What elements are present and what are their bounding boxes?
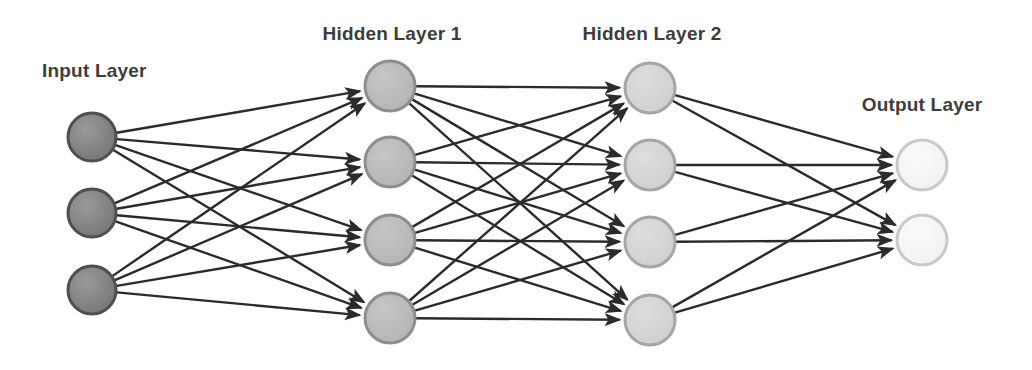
connections-group xyxy=(113,86,896,320)
layer-label-output: Output Layer xyxy=(862,94,983,115)
neuron-node-input-1[interactable] xyxy=(68,113,116,161)
neuron-node-hidden2-3[interactable] xyxy=(625,217,675,267)
neuron-node-input-3[interactable] xyxy=(68,266,116,314)
neural-network-diagram: Input LayerHidden Layer 1Hidden Layer 2O… xyxy=(0,0,1032,370)
neuron-node-hidden1-4[interactable] xyxy=(365,293,415,343)
connection-arrow xyxy=(673,180,896,307)
layer-labels-group: Input LayerHidden Layer 1Hidden Layer 2O… xyxy=(42,23,983,115)
connection-arrow xyxy=(675,172,893,232)
connection-arrow xyxy=(416,318,620,320)
neuron-node-hidden1-3[interactable] xyxy=(365,215,415,265)
neuron-node-hidden2-1[interactable] xyxy=(625,63,675,113)
neuron-node-hidden2-2[interactable] xyxy=(625,140,675,190)
layer-label-input: Input Layer xyxy=(42,60,147,81)
connection-arrow xyxy=(117,292,360,315)
connection-arrow xyxy=(416,86,620,88)
neuron-node-hidden1-2[interactable] xyxy=(365,137,415,187)
connection-arrow xyxy=(117,91,360,133)
connection-arrow xyxy=(675,95,893,157)
neuron-node-hidden2-4[interactable] xyxy=(625,295,675,345)
neuron-node-output-2[interactable] xyxy=(897,215,947,265)
connection-arrow xyxy=(117,139,360,159)
connection-arrow xyxy=(675,249,893,313)
neuron-node-hidden1-1[interactable] xyxy=(365,61,415,111)
layer-label-hidden2: Hidden Layer 2 xyxy=(582,23,721,44)
layer-label-hidden1: Hidden Layer 1 xyxy=(322,23,461,44)
connection-arrow xyxy=(409,108,627,301)
connection-arrow xyxy=(676,240,892,242)
neuron-node-output-1[interactable] xyxy=(897,140,947,190)
network-canvas: Input LayerHidden Layer 1Hidden Layer 2O… xyxy=(0,0,1032,370)
connection-arrow xyxy=(673,101,896,225)
neuron-node-input-2[interactable] xyxy=(68,189,116,237)
connection-arrow xyxy=(117,245,360,286)
